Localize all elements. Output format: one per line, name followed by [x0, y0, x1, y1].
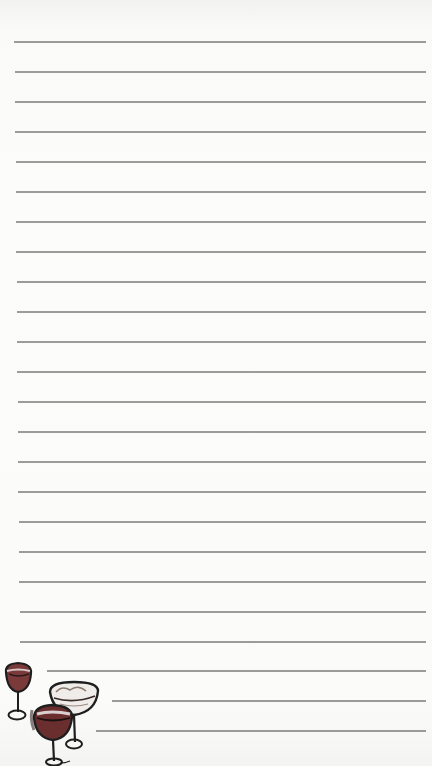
- ruled-line: [18, 491, 426, 493]
- small-wine-glass-icon: [6, 663, 31, 720]
- ruled-line: [18, 431, 426, 433]
- ruled-line: [16, 161, 426, 163]
- ruled-line: [16, 251, 426, 253]
- ruled-line: [16, 221, 426, 223]
- red-wine-glass-icon: [31, 705, 72, 766]
- ruled-line: [17, 341, 426, 343]
- notepad-paper: [0, 0, 432, 766]
- ruled-line: [19, 581, 426, 583]
- ruled-line: [20, 641, 426, 643]
- ruled-line: [17, 311, 426, 313]
- ruled-line: [14, 41, 426, 43]
- ruled-line: [16, 191, 426, 193]
- ruled-line: [19, 551, 426, 553]
- ruled-line: [96, 730, 426, 732]
- ruled-line: [15, 101, 426, 103]
- ruled-line: [18, 401, 426, 403]
- ruled-line: [18, 461, 426, 463]
- ruled-line: [112, 700, 426, 702]
- ruled-line: [20, 611, 426, 613]
- wine-glasses-icon: [0, 660, 110, 766]
- ruled-line: [15, 71, 426, 73]
- ruled-line: [19, 521, 426, 523]
- ruled-line: [17, 281, 426, 283]
- ruled-line: [17, 371, 426, 373]
- ruled-line: [15, 131, 426, 133]
